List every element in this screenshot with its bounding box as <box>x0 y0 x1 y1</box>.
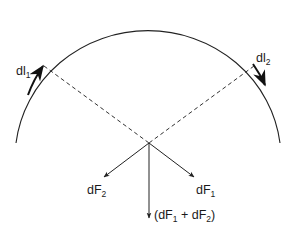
diagram-canvas: dl1 dl2 dF2 dF1 (dF1 + dF2) <box>0 0 296 234</box>
dl1-label: dl1 <box>16 64 31 80</box>
semicircle-arc <box>16 31 280 143</box>
dF1-vector <box>149 143 194 177</box>
dF1-label: dF1 <box>196 183 216 199</box>
resultant-label: (dF1 + dF2) <box>154 208 215 224</box>
dF2-label: dF2 <box>87 183 107 199</box>
dl2-label: dl2 <box>256 51 271 67</box>
dF2-vector <box>104 143 149 177</box>
dashed-line-1 <box>44 66 149 143</box>
dashed-line-2 <box>149 66 254 143</box>
